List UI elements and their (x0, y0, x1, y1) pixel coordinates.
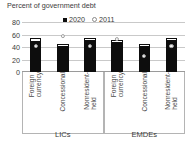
y-tick-20: 20 (12, 55, 20, 64)
bar-cap (167, 39, 177, 40)
legend-square-icon (63, 18, 67, 22)
group-label-band (22, 72, 185, 134)
bar-slot (84, 22, 96, 72)
group-label-lics: LICs (22, 130, 104, 139)
bar-2020 (57, 44, 69, 72)
group-box-lics (22, 72, 104, 134)
bar-slot (57, 22, 69, 72)
y-tick-60: 60 (12, 30, 20, 39)
bar-slot (111, 22, 123, 72)
bar-cap (140, 45, 150, 46)
y-axis-labels: 80 60 40 20 0 (0, 0, 22, 146)
bar-cap (58, 45, 68, 46)
group-label-emdes: EMDEs (104, 130, 186, 139)
bar-cap (31, 39, 41, 40)
bar-cap (85, 39, 95, 40)
bar-2020 (111, 40, 123, 73)
chart-figure: Percent of government debt 2020 2011 80 … (0, 0, 192, 146)
marker-2011 (61, 34, 65, 38)
bar-series (22, 22, 185, 72)
y-tick-0: 0 (16, 68, 20, 77)
bar-slot (166, 22, 178, 72)
bar-slot (30, 22, 42, 72)
plot-area (22, 22, 185, 72)
y-tick-40: 40 (12, 43, 20, 52)
group-box-emdes (104, 72, 186, 134)
y-tick-80: 80 (12, 18, 20, 27)
bar-slot (139, 22, 151, 72)
